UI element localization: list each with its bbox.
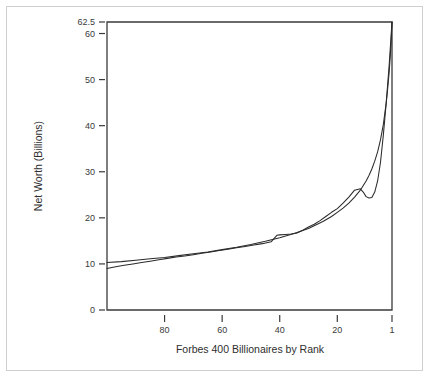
y-axis-title: Net Worth (Billions) [32,121,44,211]
net-worth-by-rank-chart: 010203040506062.5 806040201 Net Worth (B… [0,0,429,377]
x-axis-ticks: 806040201 [160,315,395,335]
x-tick-label: 1 [389,325,394,335]
y-tick-label: 62.5 [77,17,95,27]
y-tick-label: 0 [90,305,95,315]
y-tick-label: 60 [85,29,95,39]
x-tick-label: 40 [275,325,285,335]
chart-figure: 010203040506062.5 806040201 Net Worth (B… [0,0,429,377]
y-axis-ticks: 010203040506062.5 [77,17,105,315]
y-tick-label: 40 [85,121,95,131]
y-tick-label: 50 [85,75,95,85]
plot-background [107,22,392,310]
y-tick-label: 30 [85,167,95,177]
y-tick-label: 20 [85,213,95,223]
x-axis-title: Forbes 400 Billionaires by Rank [176,343,325,355]
x-tick-label: 80 [160,325,170,335]
y-tick-label: 10 [85,259,95,269]
x-tick-label: 20 [332,325,342,335]
x-tick-label: 60 [217,325,227,335]
